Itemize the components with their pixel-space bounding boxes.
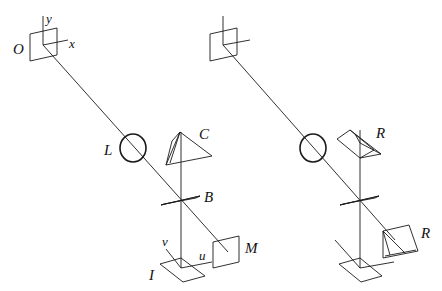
beam-splitter	[161, 196, 200, 205]
optical-axis-beam-right	[223, 45, 395, 240]
mirror	[213, 236, 239, 268]
label-u-axis: u	[199, 249, 206, 262]
label-beam-splitter: B	[204, 190, 213, 205]
u-axis	[181, 262, 212, 268]
label-image-plane: I	[149, 268, 154, 283]
label-y-axis: y	[46, 12, 52, 25]
label-object-plane: O	[13, 42, 24, 57]
prism-r-top	[337, 130, 381, 158]
prism-r-bottom	[383, 225, 418, 258]
left-panel	[30, 16, 239, 282]
label-x-axis: x	[69, 37, 75, 50]
label-prism-r-bottom: R	[421, 226, 430, 241]
label-prism: C	[199, 127, 209, 142]
beam-splitter-right	[340, 196, 379, 205]
label-prism-r-top: R	[376, 126, 385, 141]
optical-diagram	[0, 0, 442, 291]
lens-right	[300, 134, 326, 162]
image-plane-right	[335, 240, 394, 282]
x-axis	[43, 40, 68, 45]
lens	[120, 134, 146, 162]
object-plane-right	[210, 16, 250, 61]
label-v-axis: v	[162, 235, 168, 248]
label-lens: L	[104, 143, 112, 158]
label-mirror: M	[245, 241, 258, 256]
optical-axis-beam	[43, 45, 228, 252]
right-panel	[210, 16, 418, 282]
